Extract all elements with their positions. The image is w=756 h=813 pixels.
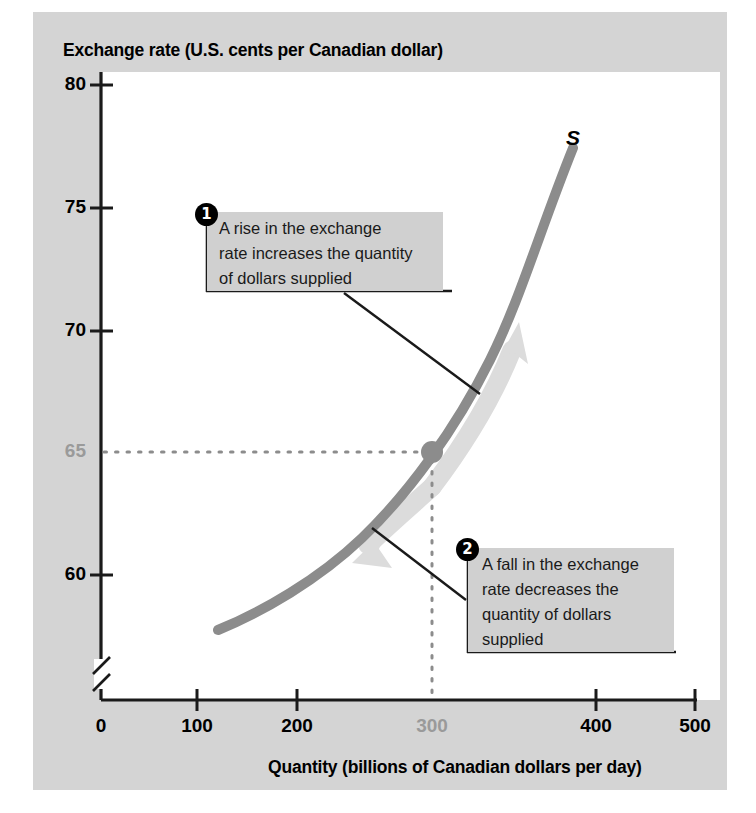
chart-layer	[0, 0, 756, 813]
callout-1-line-3: of dollars supplied	[219, 266, 435, 291]
callout-2-line-2: rate decreases the	[482, 577, 666, 602]
y-tick-label-80: 80	[40, 73, 86, 95]
axis-break-icon	[93, 657, 110, 691]
x-tick-label-0: 0	[71, 715, 131, 737]
callout-1-number-badge: 1	[195, 203, 218, 226]
callout-1-line-1: A rise in the exchange	[219, 216, 435, 241]
annotation-callout-2: A fall in the exchange rate decreases th…	[468, 548, 674, 652]
y-axis-title: Exchange rate (U.S. cents per Canadian d…	[63, 40, 443, 61]
y-tick-label-65: 65	[40, 440, 86, 462]
callout-1-line-2: rate increases the quantity	[219, 241, 435, 266]
figure-container: Exchange rate (U.S. cents per Canadian d…	[0, 0, 756, 813]
callout-2-line-3: quantity of dollars	[482, 602, 666, 627]
y-tick-label-75: 75	[40, 196, 86, 218]
callout-2-line-4: supplied	[482, 627, 666, 652]
equilibrium-point	[421, 441, 443, 463]
callout-1-leader-line	[344, 293, 480, 394]
supply-curve-label: S	[566, 126, 580, 150]
y-tick-label-70: 70	[40, 319, 86, 341]
x-tick-label-500: 500	[665, 715, 725, 737]
annotation-callout-1: A rise in the exchange rate increases th…	[207, 212, 443, 291]
callout-2-line-1: A fall in the exchange	[482, 552, 666, 577]
x-tick-label-200: 200	[267, 715, 327, 737]
y-tick-label-60: 60	[40, 563, 86, 585]
x-axis-title: Quantity (billions of Canadian dollars p…	[268, 757, 642, 778]
x-tick-label-400: 400	[566, 715, 626, 737]
x-tick-label-100: 100	[167, 715, 227, 737]
callout-2-leader-line	[372, 528, 466, 600]
x-tick-label-300: 300	[402, 715, 462, 737]
callout-2-number-badge: 2	[456, 538, 479, 561]
